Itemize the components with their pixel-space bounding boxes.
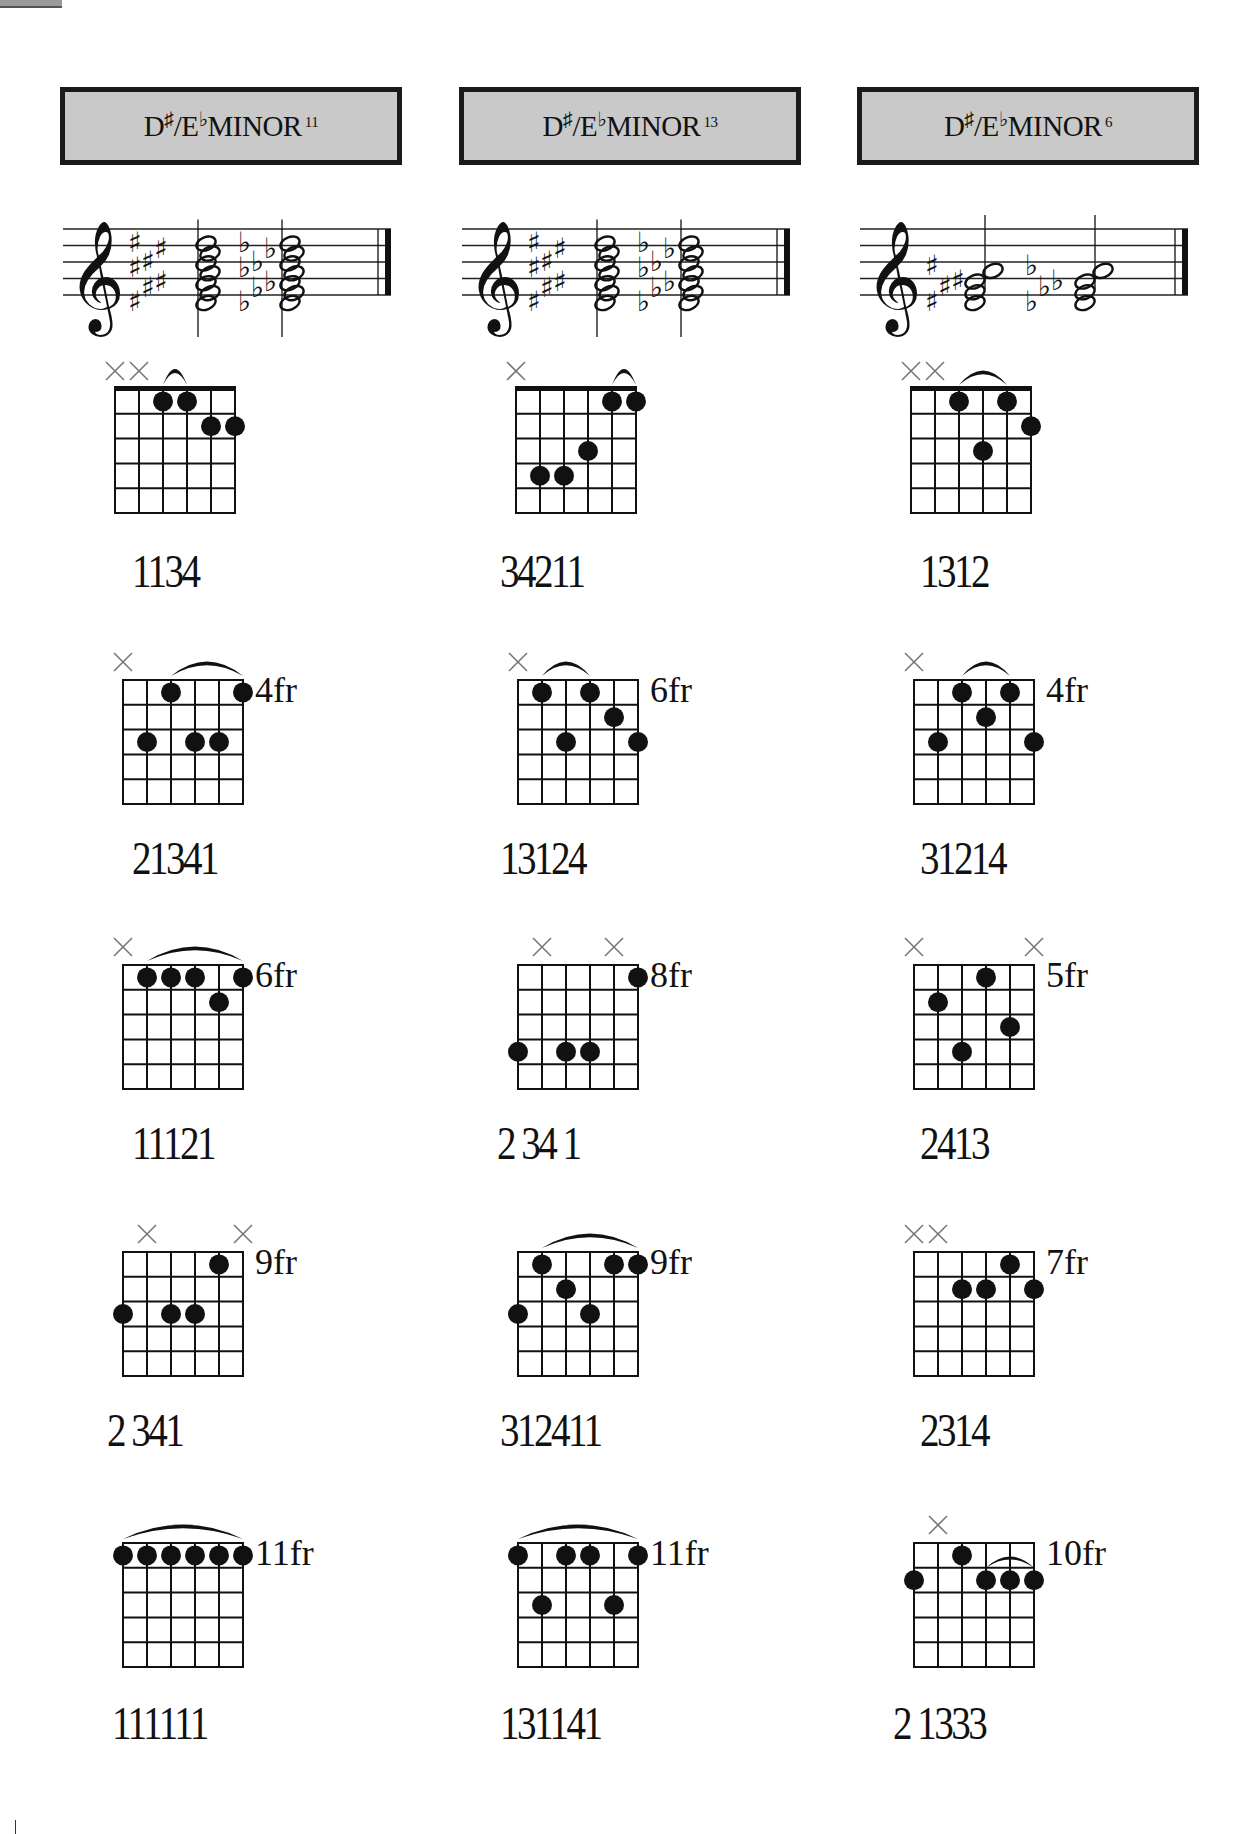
- chord-title-box: D♯/E♭MINOR6: [857, 87, 1199, 165]
- nut: [515, 386, 637, 391]
- barre-arc: [542, 662, 590, 676]
- finger-dot: [952, 1279, 972, 1299]
- finger-dot: [626, 391, 646, 411]
- finger-dot: [1024, 1570, 1044, 1590]
- muted-string-x-icon: [507, 362, 525, 380]
- chord-root: D: [944, 110, 964, 143]
- chord-diagram: 7fr: [874, 1212, 1154, 1416]
- fret-position-label: 7fr: [1046, 1242, 1088, 1282]
- fingering-numbers: 1312: [920, 545, 988, 598]
- svg-text:♯: ♯: [925, 285, 939, 318]
- chord-diagram: 8fr: [478, 925, 758, 1129]
- finger-dot: [952, 1042, 972, 1062]
- svg-text:♭: ♭: [1038, 270, 1051, 303]
- flat-symbol: ♭: [999, 107, 1008, 131]
- finger-dot: [949, 391, 969, 411]
- svg-text:♭: ♭: [637, 226, 650, 259]
- barre-arc: [542, 1234, 638, 1248]
- music-staff: 𝄞♯♯♯♯♭♭♭♭: [855, 185, 1197, 355]
- muted-string-x-icon: [905, 938, 923, 956]
- fret-position-label: 11fr: [650, 1533, 709, 1573]
- svg-text:♯: ♯: [553, 232, 567, 265]
- finger-dot: [928, 992, 948, 1012]
- svg-text:♭: ♭: [650, 245, 663, 278]
- svg-text:♯: ♯: [938, 270, 952, 303]
- chord-slash-root: /E: [573, 110, 598, 143]
- finger-dot: [580, 1545, 600, 1565]
- muted-string-x-icon: [905, 1225, 923, 1243]
- finger-dot: [580, 1304, 600, 1324]
- crop-mark: [15, 1820, 16, 1834]
- chord-extension: 6: [1105, 114, 1112, 131]
- fingering-numbers: 131141: [500, 1697, 601, 1750]
- finger-dot: [1024, 1279, 1044, 1299]
- fingering-numbers: 2413: [920, 1117, 988, 1170]
- finger-dot: [976, 707, 996, 727]
- svg-text:♭: ♭: [1025, 285, 1038, 318]
- svg-text:♭: ♭: [1025, 249, 1038, 282]
- muted-string-x-icon: [902, 362, 920, 380]
- finger-dot: [508, 1545, 528, 1565]
- fingering-numbers: 2 1333: [893, 1697, 985, 1750]
- finger-dot: [578, 441, 598, 461]
- muted-string-x-icon: [1025, 938, 1043, 956]
- finger-dot: [602, 391, 622, 411]
- finger-dot: [508, 1042, 528, 1062]
- flat-symbol: ♭: [597, 107, 606, 131]
- svg-text:♯: ♯: [527, 226, 541, 259]
- svg-text:♯: ♯: [951, 264, 965, 297]
- finger-dot: [997, 391, 1017, 411]
- finger-dot: [976, 1279, 996, 1299]
- nut: [910, 386, 1032, 391]
- chord-diagram: 6fr: [478, 640, 758, 844]
- finger-dot: [928, 732, 948, 752]
- finger-dot: [604, 707, 624, 727]
- finger-dot: [628, 967, 648, 987]
- treble-clef-icon: 𝄞: [865, 220, 922, 337]
- muted-string-x-icon: [926, 362, 944, 380]
- chord-column-minor-6: D♯/E♭MINOR6 𝄞♯♯♯♯♭♭♭♭13124fr312145fr2413…: [0, 0, 400, 1834]
- finger-dot: [556, 732, 576, 752]
- finger-dot: [1000, 682, 1020, 702]
- muted-string-x-icon: [533, 938, 551, 956]
- finger-dot: [1000, 1254, 1020, 1274]
- chord-diagram: [476, 349, 756, 553]
- chord-diagram: 10fr: [874, 1503, 1154, 1707]
- finger-dot: [628, 732, 648, 752]
- sharp-symbol: ♯: [563, 108, 573, 131]
- finger-dot: [1000, 1017, 1020, 1037]
- barre-arc: [612, 369, 636, 385]
- finger-dot: [556, 1279, 576, 1299]
- chord-diagram: 11fr: [478, 1503, 758, 1707]
- finger-dot: [554, 466, 574, 486]
- finger-dot: [952, 682, 972, 702]
- finger-dot: [580, 682, 600, 702]
- finger-dot: [628, 1254, 648, 1274]
- finger-dot: [973, 441, 993, 461]
- chord-diagram: 4fr: [874, 640, 1154, 844]
- finger-dot: [604, 1595, 624, 1615]
- barre-arc: [518, 1525, 638, 1539]
- finger-dot: [904, 1570, 924, 1590]
- svg-text:♯: ♯: [925, 249, 939, 282]
- treble-clef-icon: 𝄞: [467, 220, 524, 337]
- fingering-numbers: 2314: [920, 1404, 988, 1457]
- finger-dot: [556, 1042, 576, 1062]
- fingering-numbers: 13124: [500, 832, 585, 885]
- chord-slash-root: /E: [974, 110, 999, 143]
- fingering-numbers: 34211: [500, 545, 584, 598]
- finger-dot: [628, 1545, 648, 1565]
- finger-dot: [976, 1570, 996, 1590]
- fret-position-label: 10fr: [1046, 1533, 1106, 1573]
- svg-text:♭: ♭: [663, 232, 676, 265]
- muted-string-x-icon: [905, 653, 923, 671]
- finger-dot: [1024, 732, 1044, 752]
- fret-position-label: 9fr: [650, 1242, 692, 1282]
- fingering-numbers: 2 34 1: [497, 1117, 579, 1170]
- finger-dot: [532, 1254, 552, 1274]
- muted-string-x-icon: [605, 938, 623, 956]
- finger-dot: [604, 1254, 624, 1274]
- fret-position-label: 6fr: [650, 670, 692, 710]
- finger-dot: [1021, 416, 1041, 436]
- muted-string-x-icon: [929, 1516, 947, 1534]
